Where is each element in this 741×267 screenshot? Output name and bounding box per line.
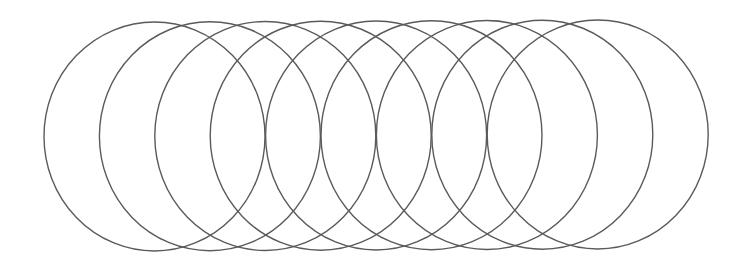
overlapping-circles-diagram <box>0 0 741 267</box>
circle-group <box>44 20 708 251</box>
